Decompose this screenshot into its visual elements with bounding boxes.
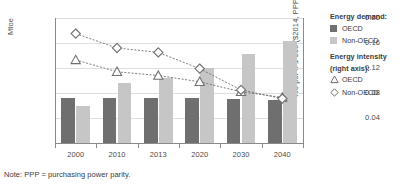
- triangle-marker-icon: [330, 75, 339, 84]
- x-axis-tick-label: 2030: [219, 150, 263, 159]
- chart-figure: Mtoe toe per $ 1 000 ($2014, PPP) 3 0006…: [0, 0, 419, 186]
- legend-label-intensity-nonoecd: Non-OECD: [342, 88, 378, 97]
- legend-label-intensity-oecd: OECD: [342, 75, 363, 84]
- x-axis-tick-label: 2040: [260, 150, 304, 159]
- x-axis-tick-mark: [55, 144, 56, 148]
- legend-item-demand-nonoecd: Non-OECD: [330, 36, 418, 45]
- legend-item-intensity-nonoecd: Non-OECD: [330, 88, 418, 97]
- right-axis-line: [303, 18, 304, 144]
- legend-title-demand: Energy demand:: [330, 12, 418, 21]
- x-axis-tick-mark: [138, 144, 139, 148]
- x-axis-tick-mark: [262, 144, 263, 148]
- figure-note: Note: PPP = purchasing power parity.: [4, 170, 130, 179]
- legend-label-demand-oecd: OECD: [342, 24, 363, 33]
- left-axis-title: Mtoe: [6, 4, 15, 50]
- square-swatch-icon: [330, 25, 337, 32]
- right-axis-tick-label: 0.04: [365, 113, 380, 122]
- plot-area: 3 0006 0009 00012 00015 000 0.040.080.12…: [55, 18, 303, 143]
- legend-title-intensity-line1: Energy intensity: [330, 52, 418, 61]
- square-swatch-icon: [330, 37, 337, 44]
- intensity-line: [76, 34, 283, 99]
- x-axis-tick-mark: [303, 144, 304, 148]
- legend-item-demand-oecd: OECD: [330, 24, 418, 33]
- left-axis-line: [55, 18, 56, 144]
- diamond-marker-icon: [195, 64, 204, 73]
- diamond-marker-icon: [112, 43, 121, 52]
- x-axis-tick-label: 2020: [178, 150, 222, 159]
- triangle-marker-icon: [71, 55, 80, 63]
- x-axis-tick-label: 2000: [54, 150, 98, 159]
- intensity-line: [76, 60, 283, 98]
- intensity-series-layer: [55, 18, 303, 143]
- diamond-marker-icon: [330, 88, 339, 97]
- x-axis-tick-mark: [220, 144, 221, 148]
- x-axis-tick-label: 2013: [136, 150, 180, 159]
- diamond-marker-icon: [71, 29, 80, 38]
- diamond-marker-icon: [154, 48, 163, 57]
- legend-item-intensity-oecd: OECD: [330, 75, 418, 84]
- x-axis-tick-label: 2010: [95, 150, 139, 159]
- triangle-marker-icon: [154, 71, 163, 79]
- diamond-marker-icon: [278, 94, 287, 103]
- x-axis-tick-mark: [96, 144, 97, 148]
- chart-legend: Energy demand: OECD Non-OECD Energy inte…: [330, 12, 418, 100]
- x-axis-tick-mark: [179, 144, 180, 148]
- legend-label-demand-nonoecd: Non-OECD: [342, 36, 378, 45]
- legend-title-intensity-line2: (right axis):: [330, 64, 418, 73]
